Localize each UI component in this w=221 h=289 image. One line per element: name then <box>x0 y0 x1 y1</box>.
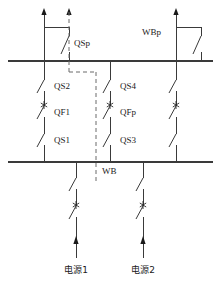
switch-right-breaker[interactable] <box>169 101 179 134</box>
feeder-right-column <box>169 61 179 162</box>
qsp-bypass-switch[interactable] <box>44 27 69 61</box>
qsp-label: QSp <box>74 38 91 48</box>
switch-source-1-breaker[interactable] <box>69 201 79 258</box>
switch-qs2[interactable] <box>37 80 44 106</box>
switch-right-lower[interactable] <box>169 134 176 162</box>
wb-label: WB <box>102 166 117 176</box>
breaker-star-marker-source-1 <box>73 201 79 209</box>
source-1-label: 电源1 <box>64 264 88 275</box>
source-2-label: 电源2 <box>131 264 155 275</box>
switch-qf1[interactable] <box>37 101 47 134</box>
switch-right-upper[interactable] <box>169 80 176 106</box>
wbp-label: WBp <box>142 27 161 37</box>
switch-source-2-disconnector[interactable] <box>136 178 143 206</box>
switch-qs1[interactable] <box>37 134 44 162</box>
qs4-label: QS4 <box>120 81 137 91</box>
feeder-middle-column <box>103 61 113 162</box>
qs2-label: QS2 <box>54 81 70 91</box>
breaker-star-marker-qf1 <box>41 101 47 109</box>
switch-qs3[interactable] <box>103 134 110 162</box>
qf1-label: QF1 <box>54 107 70 117</box>
top-incoming-arrow-right <box>173 8 178 61</box>
feeder-left-column <box>37 61 47 162</box>
source-2-branch <box>136 162 146 258</box>
single-line-diagram: QSp WBp <box>0 0 221 289</box>
wbp-bypass-switch[interactable] <box>176 27 201 61</box>
source-1-branch <box>69 162 79 258</box>
top-incoming-arrow-left <box>41 8 46 61</box>
switch-source-1-disconnector[interactable] <box>69 178 76 206</box>
switch-qs4[interactable] <box>103 80 110 106</box>
qs3-label: QS3 <box>120 135 137 145</box>
breaker-star-marker-right <box>173 101 179 109</box>
qs1-label: QS1 <box>54 135 70 145</box>
breaker-star-marker-qfp <box>107 101 113 109</box>
diagram-canvas: QSp WBp <box>0 0 221 289</box>
breaker-star-marker-source-2 <box>140 201 146 209</box>
switch-qfp[interactable] <box>103 101 113 134</box>
switch-source-2-breaker[interactable] <box>136 201 146 258</box>
qfp-label: QFp <box>120 107 137 117</box>
